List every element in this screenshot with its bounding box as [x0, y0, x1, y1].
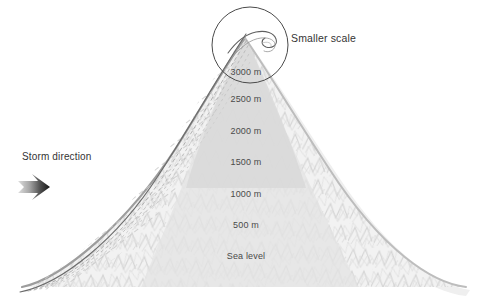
storm-direction-arrow [18, 174, 50, 200]
diagram-canvas [0, 0, 485, 306]
orographic-diagram: Storm direction Smaller scale 3000 m 250… [0, 0, 485, 306]
